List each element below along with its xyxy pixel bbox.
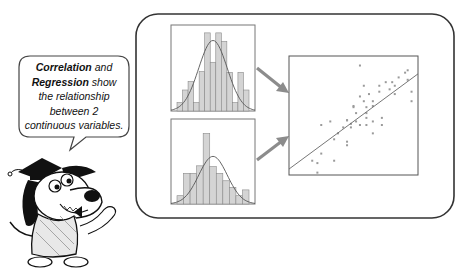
- scatter-point: [350, 126, 352, 128]
- scatter-point: [389, 88, 391, 90]
- histogram-bar: [210, 62, 216, 111]
- scatter-point: [365, 124, 367, 126]
- scatter-point: [355, 112, 357, 114]
- histogram-bar: [238, 72, 244, 111]
- scatter-point: [394, 85, 396, 87]
- scatter-point: [355, 120, 357, 122]
- histogram-bar: [221, 41, 227, 111]
- scatter-point: [385, 81, 387, 83]
- scatter-point: [381, 124, 383, 126]
- term-correlation: Correlation: [36, 61, 92, 73]
- scatter-point: [372, 120, 374, 122]
- histogram-bar: [203, 133, 210, 204]
- scatter-point: [381, 117, 383, 119]
- histogram-bar: [227, 72, 233, 111]
- scatter-point: [378, 85, 380, 87]
- term-regression: Regression: [32, 76, 89, 88]
- histogram-bar: [205, 33, 211, 111]
- scatter-point: [407, 69, 409, 71]
- scatter-point: [320, 124, 322, 126]
- histogram-bar: [216, 33, 222, 111]
- scatter-point: [320, 153, 322, 155]
- histogram-bar: [216, 173, 223, 204]
- histogram-bar: [223, 181, 230, 204]
- scatter-point: [346, 141, 348, 143]
- scatter-point: [411, 100, 413, 102]
- histogram-bar: [232, 103, 238, 111]
- histogram-bar: [199, 72, 205, 111]
- diagram-canvas: [0, 0, 462, 269]
- bubble-connector-1: and: [92, 61, 112, 73]
- scatter-point: [346, 119, 348, 121]
- bubble-connector-2: show: [89, 76, 116, 88]
- scatter-point: [316, 162, 318, 164]
- histogram-bottom: [171, 119, 255, 204]
- scatter-point: [359, 95, 361, 97]
- scatter-point: [372, 132, 374, 134]
- histogram-bar: [184, 173, 191, 204]
- histogram-bar: [210, 167, 217, 204]
- histogram-bar: [177, 196, 184, 204]
- scatter-point: [368, 93, 370, 95]
- mascot-dog: [8, 158, 116, 267]
- scatter-point: [316, 172, 318, 174]
- scatter-point: [398, 76, 400, 78]
- scatter-point: [411, 91, 413, 93]
- scatter-point: [359, 124, 361, 126]
- scatter-point: [329, 120, 331, 122]
- scatter-point: [365, 106, 367, 108]
- bubble-line-5: continuous variables.: [19, 118, 129, 133]
- scatter-point: [359, 65, 361, 67]
- speech-bubble-text: Correlation and Regression show the rela…: [19, 60, 129, 133]
- scatter-point: [333, 138, 335, 140]
- scatter-point: [311, 160, 313, 162]
- scatter-point: [404, 72, 406, 74]
- histogram-bar: [197, 166, 204, 204]
- histogram-bar: [194, 103, 200, 111]
- scatter-point: [391, 81, 393, 83]
- bubble-line-4: between 2: [19, 104, 129, 119]
- scatter-point: [346, 144, 348, 146]
- scatter-point: [353, 106, 355, 108]
- scatter-point: [363, 85, 365, 87]
- histogram-top: [171, 25, 255, 111]
- bubble-line-3: the relationship: [19, 89, 129, 104]
- scatter-plot: [289, 56, 418, 175]
- scatter-point: [394, 93, 396, 95]
- scatter-point: [372, 100, 374, 102]
- scatter-point: [378, 91, 380, 93]
- scatter-point: [333, 160, 335, 162]
- scatter-point: [363, 100, 365, 102]
- scatter-point: [365, 117, 367, 119]
